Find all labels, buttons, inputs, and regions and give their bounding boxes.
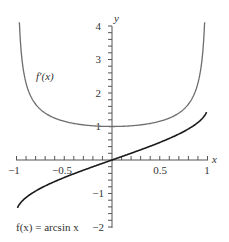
- chart-canvas: 4 3 2 1 −1 −2 −1 −0.5 0.5 1 y x f′(x) f(…: [0, 0, 229, 242]
- x-tick-05: 0.5: [153, 164, 167, 176]
- y-tick-4: 4: [96, 20, 102, 32]
- y-axis-label: y: [113, 12, 119, 24]
- x-axis-label: x: [211, 153, 217, 165]
- function-label: f(x) = arcsin x: [16, 221, 79, 234]
- y-tick-neg1: −1: [92, 187, 104, 199]
- x-tick-neg05: −0.5: [52, 164, 72, 176]
- x-tick-neg1: −1: [8, 164, 20, 176]
- x-tick-1: 1: [204, 164, 210, 176]
- derivative-label: f′(x): [36, 70, 54, 83]
- y-tick-2: 2: [96, 87, 102, 99]
- y-tick-3: 3: [96, 53, 102, 65]
- y-tick-neg2: −2: [92, 221, 104, 233]
